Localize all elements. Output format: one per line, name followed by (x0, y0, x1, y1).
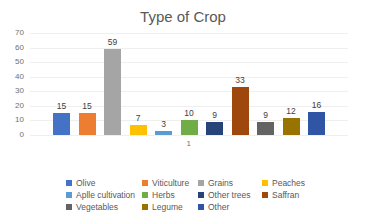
legend-label: Saffran (272, 190, 299, 200)
gridline (30, 77, 348, 78)
legend-swatch-icon (198, 180, 204, 186)
legend-swatch-icon (262, 192, 268, 198)
y-tick-label: 10 (4, 115, 24, 124)
legend-label: Legume (152, 202, 183, 212)
legend-item[interactable]: Other trees (198, 190, 262, 200)
legend-item[interactable]: Olive (66, 178, 142, 188)
legend-item[interactable]: Grains (198, 178, 262, 188)
y-tick-label: 40 (4, 72, 24, 81)
legend-swatch-icon (142, 180, 148, 186)
x-tick-label: 1 (187, 139, 191, 148)
y-tick-label: 0 (4, 130, 24, 139)
legend-label: Other (208, 202, 229, 212)
legend-label: Vegetables (76, 202, 118, 212)
legend-item[interactable]: Viticulture (142, 178, 198, 188)
legend-item[interactable]: Other (198, 202, 262, 212)
gridline (30, 62, 348, 63)
data-label: 3 (149, 119, 179, 129)
legend-swatch-icon (66, 192, 72, 198)
bar-other[interactable] (308, 112, 325, 135)
y-tick-label: 20 (4, 101, 24, 110)
chart-title: Type of Crop (0, 8, 366, 25)
data-label: 15 (72, 101, 102, 111)
gridline (30, 48, 348, 49)
gridline (30, 135, 348, 136)
y-tick-label: 60 (4, 43, 24, 52)
bar-aplle-cultivation[interactable] (155, 131, 172, 135)
gridline (30, 91, 348, 92)
legend-swatch-icon (198, 192, 204, 198)
legend-swatch-icon (198, 204, 204, 210)
bar-herbs[interactable] (181, 120, 198, 135)
legend-item[interactable]: Saffran (262, 190, 322, 200)
legend-item[interactable]: Vegetables (66, 202, 142, 212)
data-label: 33 (225, 75, 255, 85)
legend-label: Viticulture (152, 178, 189, 188)
bar-grains[interactable] (104, 49, 121, 135)
legend-swatch-icon (66, 204, 72, 210)
legend-swatch-icon (142, 192, 148, 198)
legend-swatch-icon (262, 180, 268, 186)
bar-saffran[interactable] (232, 87, 249, 135)
bar-viticulture[interactable] (79, 113, 96, 135)
y-tick-label: 30 (4, 86, 24, 95)
legend-label: Herbs (152, 190, 175, 200)
y-tick-label: 70 (4, 28, 24, 37)
legend-swatch-icon (142, 204, 148, 210)
legend-item[interactable]: Peaches (262, 178, 322, 188)
legend-swatch-icon (66, 180, 72, 186)
legend-item[interactable]: Herbs (142, 190, 198, 200)
bar-peaches[interactable] (130, 125, 147, 135)
plot-area: 151559731093391216 (30, 33, 348, 135)
bar-olive[interactable] (53, 113, 70, 135)
legend-label: Other trees (208, 190, 251, 200)
legend: OliveViticultureGrainsPeachesAplle culti… (66, 177, 356, 213)
legend-label: Aplle cultivation (76, 190, 135, 200)
bar-legume[interactable] (283, 118, 300, 135)
legend-label: Grains (208, 178, 233, 188)
data-label: 59 (98, 37, 128, 47)
gridline (30, 33, 348, 34)
legend-label: Peaches (272, 178, 305, 188)
legend-item[interactable]: Legume (142, 202, 198, 212)
y-tick-label: 50 (4, 57, 24, 66)
bar-other-trees[interactable] (206, 122, 223, 135)
legend-item[interactable]: Aplle cultivation (66, 190, 142, 200)
bar-vegetables[interactable] (257, 122, 274, 135)
data-label: 9 (200, 110, 230, 120)
legend-label: Olive (76, 178, 95, 188)
data-label: 16 (302, 100, 332, 110)
